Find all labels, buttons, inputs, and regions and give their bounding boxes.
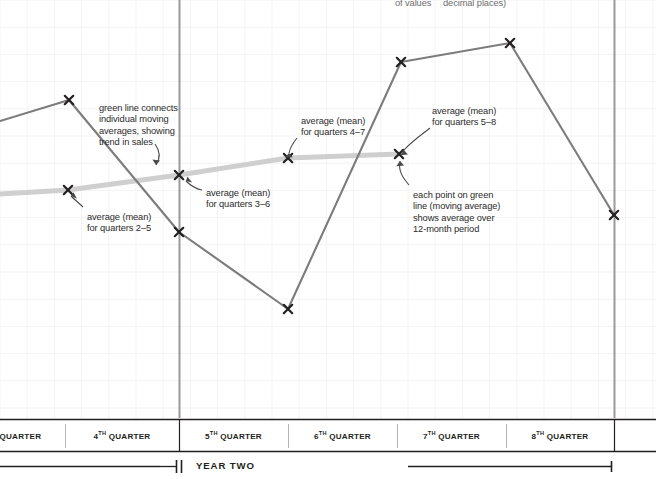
quarter-word: QUARTER <box>436 432 480 441</box>
series-line-sales <box>0 43 614 309</box>
quarter-ordinal-suffix: TH <box>536 430 544 436</box>
year-period-label: YEAR TWO <box>196 460 255 471</box>
quarter-ordinal-suffix: TH <box>319 430 327 436</box>
quarter-ordinal-suffix: TH <box>210 430 218 436</box>
annotation-green-line-connects: green line connects individual moving av… <box>99 103 178 149</box>
quarter-label-3: 3RD QUARTER <box>0 430 65 441</box>
data-point-marker <box>284 305 292 313</box>
quarter-ordinal-suffix: TH <box>428 430 436 436</box>
quarter-word: QUARTER <box>544 432 588 441</box>
annotation-average-quarters-5-8: average (mean) for quarters 5–8 <box>432 106 496 129</box>
quarter-ordinal-suffix: TH <box>98 430 106 436</box>
year-range-bar <box>0 460 612 473</box>
clipped-caption-fragment-1: of values <box>395 0 431 9</box>
annotation-average-quarters-4-7: average (mean) for quarters 4–7 <box>301 116 365 139</box>
leader-quarters-3-6 <box>186 181 202 190</box>
quarter-word: QUARTER <box>106 432 150 441</box>
annotation-average-quarters-3-6: average (mean) for quarters 3–6 <box>206 188 270 211</box>
leader-quarters-4-7 <box>289 138 297 153</box>
grid-lines <box>0 0 656 418</box>
chart-figure: of valuesdecimal places) green line conn… <box>0 0 656 479</box>
quarter-label-7: 7TH QUARTER <box>397 430 506 441</box>
quarter-label-5: 5TH QUARTER <box>179 430 288 441</box>
annotation-average-quarters-2-5: average (mean) for quarters 2–5 <box>87 212 151 235</box>
quarter-word: QUARTER <box>0 432 41 441</box>
chart-canvas <box>0 0 656 479</box>
quarter-word: QUARTER <box>218 432 262 441</box>
quarter-word: QUARTER <box>327 432 371 441</box>
annotation-each-point-moving-average: each point on green line (moving average… <box>413 190 500 236</box>
series-line-moving-average-12-month- <box>0 154 399 194</box>
quarter-label-8: 8TH QUARTER <box>506 430 614 441</box>
clipped-caption-fragment-2: decimal places) <box>443 0 506 9</box>
quarter-label-6: 6TH QUARTER <box>288 430 397 441</box>
quarter-label-4: 4TH QUARTER <box>65 430 179 441</box>
